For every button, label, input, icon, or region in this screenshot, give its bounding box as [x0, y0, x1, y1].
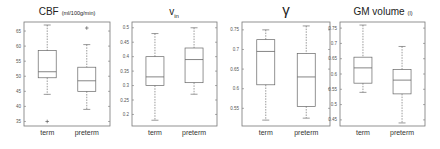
y-tick-label: 0.3	[123, 83, 130, 88]
y-tick-label: 0.2	[123, 112, 130, 117]
y-tick-label: 65	[16, 29, 22, 34]
y-tick-label: 0.4	[123, 54, 130, 59]
x-tick-label: preterm	[75, 129, 99, 137]
y-tick-label: 0.45	[328, 117, 337, 122]
y-tick-label: 45	[16, 89, 22, 94]
y-tick-label: 0.5	[331, 102, 338, 107]
x-tick-label: preterm	[390, 129, 414, 137]
box-preterm	[185, 28, 203, 94]
y-tick-label: 0.25	[120, 98, 129, 103]
panel-title: CBF(ml/100g/min)	[39, 6, 96, 17]
box-term	[146, 34, 164, 121]
y-tick-label: 0.75	[230, 27, 239, 32]
panel-title: GM volume(l)	[353, 6, 412, 17]
y-tick-label: 0.7	[331, 41, 338, 46]
y-tick-label: 60	[16, 44, 22, 49]
axes-frame	[132, 22, 217, 126]
y-tick-label: 55	[16, 59, 22, 64]
panel-title: vin	[169, 6, 179, 19]
axes-frame	[242, 22, 330, 126]
y-tick-label: 0.65	[328, 56, 337, 61]
y-tick-label: 0.55	[230, 106, 239, 111]
y-tick-label: 0.5	[123, 25, 130, 30]
y-tick-label: 0.65	[230, 67, 239, 72]
panel-2: vin0.20.250.30.350.40.450.5termpreterm	[120, 6, 217, 137]
box-term	[38, 25, 56, 123]
y-tick-label: 50	[16, 74, 22, 79]
box-term	[354, 25, 372, 92]
box-preterm	[297, 26, 315, 118]
y-tick-label: 0.6	[331, 72, 338, 77]
y-tick-label: 0.45	[120, 40, 129, 45]
y-tick-label: 0.7	[233, 47, 240, 52]
x-tick-label: term	[148, 129, 162, 136]
y-tick-label: 0.35	[120, 69, 129, 74]
y-tick-label: 40	[16, 104, 22, 109]
panel-1: CBF(ml/100g/min)35404550556065termpreter…	[16, 6, 110, 137]
box-term	[257, 30, 275, 120]
x-tick-label: term	[259, 129, 273, 136]
box-preterm	[78, 26, 96, 109]
box-preterm	[393, 46, 411, 122]
panel-title: γ	[282, 1, 290, 18]
x-tick-label: preterm	[182, 129, 206, 137]
panel-3: γ0.550.60.650.70.75termpreterm	[230, 1, 330, 137]
y-tick-label: 0.55	[328, 87, 337, 92]
y-tick-label: 0.6	[233, 86, 240, 91]
panel-4: GM volume(l)0.450.50.550.60.650.70.75ter…	[328, 6, 425, 137]
box-plot-figure: CBF(ml/100g/min)35404550556065termpreter…	[0, 0, 440, 149]
x-tick-label: preterm	[294, 129, 318, 137]
axes-frame	[24, 22, 110, 126]
axes-frame	[340, 22, 425, 126]
x-tick-label: term	[356, 129, 370, 136]
x-tick-label: term	[40, 129, 54, 136]
y-tick-label: 35	[16, 119, 22, 124]
y-tick-label: 0.75	[328, 26, 337, 31]
